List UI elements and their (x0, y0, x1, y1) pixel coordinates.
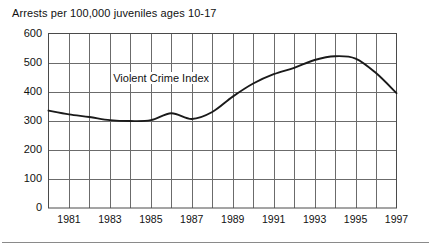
chart-figure: Arrests per 100,000 juveniles ages 10-17… (0, 0, 431, 250)
x-axis-tick-label: 1989 (221, 214, 244, 225)
y-axis-tick-label: 400 (2, 86, 42, 97)
violent-crime-index-line (49, 56, 397, 121)
x-axis-tick-label: 1993 (303, 214, 326, 225)
x-axis-tick-label: 1987 (180, 214, 203, 225)
bottom-divider-rule (2, 242, 429, 243)
y-axis-tick-label: 200 (2, 144, 42, 155)
x-axis-tick-label: 1983 (98, 214, 121, 225)
y-axis-tick-label: 0 (2, 202, 42, 213)
x-axis-tick-label: 1991 (262, 214, 285, 225)
x-axis-tick-label: 1981 (57, 214, 80, 225)
plot-frame (49, 34, 397, 209)
x-axis-tick-label: 1985 (139, 214, 162, 225)
y-axis-tick-label: 300 (2, 115, 42, 126)
horizontal-gridlines (49, 64, 397, 180)
series-label-violent-crime-index: Violent Crime Index (111, 72, 211, 84)
y-axis-tick-label: 100 (2, 173, 42, 184)
x-axis-tick-label: 1997 (385, 214, 408, 225)
y-axis-tick-label: 500 (2, 57, 42, 68)
x-axis-tick-label: 1995 (344, 214, 367, 225)
y-axis-tick-label: 600 (2, 28, 42, 39)
